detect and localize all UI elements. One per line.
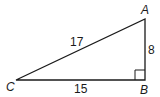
triangle-diagram: A B C 17 8 15 (0, 0, 160, 97)
right-angle-marker (135, 70, 145, 80)
side-label-ab: 8 (148, 43, 155, 57)
triangle-abc (16, 19, 145, 80)
side-label-cb: 15 (74, 82, 88, 96)
vertex-label-b: B (140, 83, 148, 97)
side-label-ac: 17 (70, 35, 84, 49)
vertex-label-a: A (140, 3, 149, 17)
vertex-label-c: C (6, 80, 15, 94)
